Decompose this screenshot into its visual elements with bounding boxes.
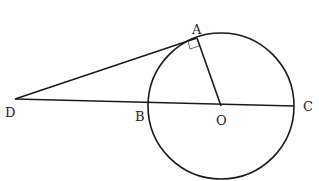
label-d: D	[5, 106, 15, 119]
diagram-svg	[0, 0, 319, 181]
label-b: B	[135, 110, 145, 123]
line-dc	[15, 99, 294, 106]
radius-oa	[197, 38, 221, 106]
tangent-da	[15, 38, 197, 99]
geometry-diagram: A D B O C	[0, 0, 319, 181]
right-angle-mark	[188, 41, 199, 49]
label-o: O	[216, 114, 227, 127]
label-a: A	[192, 23, 201, 36]
label-c: C	[303, 100, 313, 113]
